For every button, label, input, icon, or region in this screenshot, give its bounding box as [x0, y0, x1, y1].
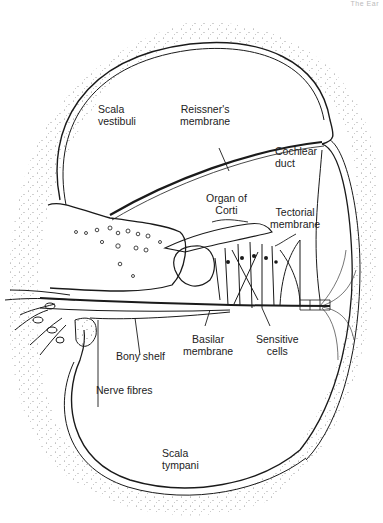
label-reissners-membrane: Reissner's membrane — [180, 103, 230, 127]
label-scala-tympani: Scala tympani — [162, 447, 199, 471]
label-line: Cochlear — [275, 145, 317, 157]
label-line: Scala — [162, 447, 199, 459]
label-scala-vestibuli: Scala vestibuli — [98, 103, 136, 127]
label-cochlear-duct: Cochlear duct — [275, 145, 317, 169]
label-tectorial-membrane: Tectorial membrane — [270, 206, 320, 230]
label-line: cells — [256, 345, 299, 357]
label-line: membrane — [270, 218, 320, 230]
label-line: Nerve fibres — [96, 384, 153, 396]
label-line: Sensitive — [256, 333, 299, 345]
label-basilar-membrane: Basilar membrane — [183, 333, 233, 357]
label-line: tympani — [162, 459, 199, 471]
label-line: membrane — [183, 345, 233, 357]
label-line: Bony shelf — [116, 350, 165, 362]
label-line: vestibuli — [98, 115, 136, 127]
label-line: Corti — [206, 204, 247, 216]
label-line: Organ of — [206, 192, 247, 204]
label-line: Scala — [98, 103, 136, 115]
label-line: Basilar — [183, 333, 233, 345]
label-organ-of-corti: Organ of Corti — [206, 192, 247, 216]
label-line: Reissner's — [180, 103, 230, 115]
label-line: membrane — [180, 115, 230, 127]
label-nerve-fibres: Nerve fibres — [96, 384, 153, 396]
label-line: Tectorial — [270, 206, 320, 218]
cochlea-diagram — [0, 0, 383, 523]
label-sensitive-cells: Sensitive cells — [256, 333, 299, 357]
label-line: duct — [275, 157, 317, 169]
label-bony-shelf: Bony shelf — [116, 350, 165, 362]
